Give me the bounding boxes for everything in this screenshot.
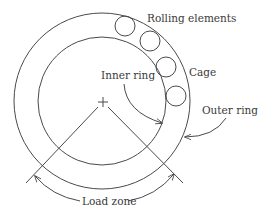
rolling-element [140, 31, 160, 51]
bearing-diagram: Rolling elements Cage Inner ring Outer r… [0, 0, 262, 211]
label-cage: Cage [189, 67, 216, 78]
outer-ring [14, 13, 190, 189]
inner-ring-leader-arrow [124, 84, 162, 123]
label-outer-ring: Outer ring [202, 105, 258, 116]
label-inner-ring: Inner ring [101, 70, 155, 81]
rolling-element [156, 57, 176, 77]
rolling-element [166, 86, 186, 106]
label-load-zone: Load zone [82, 196, 136, 207]
load-zone-left-line [26, 107, 98, 183]
load-zone-right-line [108, 107, 183, 183]
label-rolling-elements: Rolling elements [147, 13, 236, 24]
rolling-element [115, 16, 135, 36]
center-mark-icon [98, 97, 108, 107]
outer-ring-leader-arrow [185, 118, 226, 137]
load-zone-arrow-left [35, 176, 80, 201]
